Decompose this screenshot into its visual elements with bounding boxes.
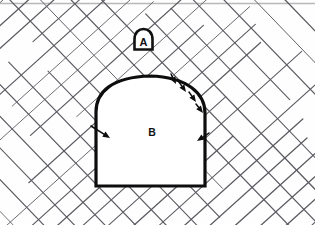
region-b-label: B xyxy=(148,126,156,138)
diagram-canvas: A B xyxy=(0,0,315,225)
marker-a-label: A xyxy=(140,36,148,48)
marker-a: A xyxy=(135,29,153,50)
tunnel-diagram-figure: A B xyxy=(0,0,315,225)
